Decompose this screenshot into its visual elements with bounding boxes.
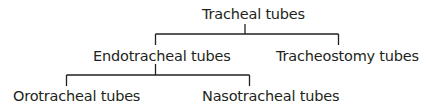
node-endotracheal-tubes: Endotracheal tubes [93,49,231,64]
node-tracheal-tubes: Tracheal tubes [202,7,305,22]
node-nasotracheal-tubes: Nasotracheal tubes [202,89,339,104]
node-orotracheal-tubes: Orotracheal tubes [13,89,140,104]
node-tracheostomy-tubes: Tracheostomy tubes [276,49,419,64]
